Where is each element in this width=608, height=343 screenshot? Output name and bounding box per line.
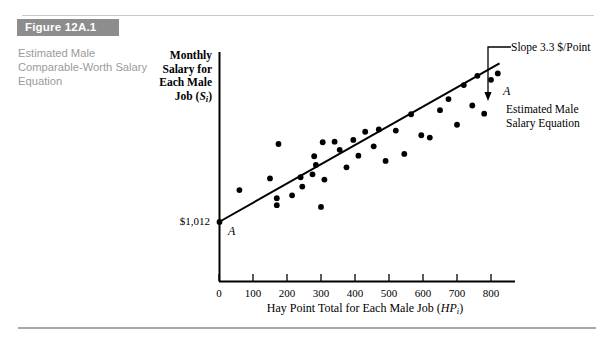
data-point xyxy=(418,132,424,138)
x-tick-label-200: 200 xyxy=(272,287,302,299)
data-point xyxy=(322,177,328,183)
x-tick-label-800: 800 xyxy=(476,287,506,299)
data-point xyxy=(469,103,475,109)
scatter-plot xyxy=(0,0,608,343)
data-point xyxy=(495,71,501,77)
x-tick-label-400: 400 xyxy=(340,287,370,299)
data-point xyxy=(274,195,280,201)
data-point xyxy=(237,187,243,193)
data-point xyxy=(401,151,407,157)
data-point xyxy=(318,204,324,210)
axes xyxy=(219,52,515,282)
data-point xyxy=(481,111,487,117)
data-point xyxy=(383,158,389,164)
data-point xyxy=(437,107,443,113)
data-point xyxy=(362,129,368,135)
data-point xyxy=(274,202,280,208)
x-tick-label-300: 300 xyxy=(306,287,336,299)
intercept-marker xyxy=(217,219,223,225)
data-point xyxy=(311,153,317,159)
data-point xyxy=(289,192,295,198)
data-point xyxy=(267,175,273,181)
x-tick-label-500: 500 xyxy=(374,287,404,299)
data-point xyxy=(454,122,460,128)
x-tick-label-100: 100 xyxy=(238,287,268,299)
x-axis-ticks xyxy=(219,274,491,281)
data-point xyxy=(446,96,452,102)
data-point xyxy=(427,135,433,141)
data-point xyxy=(310,171,316,177)
data-point xyxy=(371,143,377,149)
data-point xyxy=(350,137,356,143)
x-tick-label-700: 700 xyxy=(442,287,472,299)
data-point xyxy=(299,184,305,190)
x-tick-label-600: 600 xyxy=(408,287,438,299)
regression-line xyxy=(219,63,500,222)
data-point xyxy=(488,77,494,83)
figure-page: Figure 12A.1 Estimated Male Comparable-W… xyxy=(0,0,608,343)
x-tick-label-0: 0 xyxy=(204,287,234,299)
data-point xyxy=(320,139,326,145)
data-point xyxy=(332,139,338,145)
data-point xyxy=(356,153,362,159)
data-point xyxy=(393,128,399,134)
data-point xyxy=(344,164,350,170)
data-point xyxy=(276,141,282,147)
